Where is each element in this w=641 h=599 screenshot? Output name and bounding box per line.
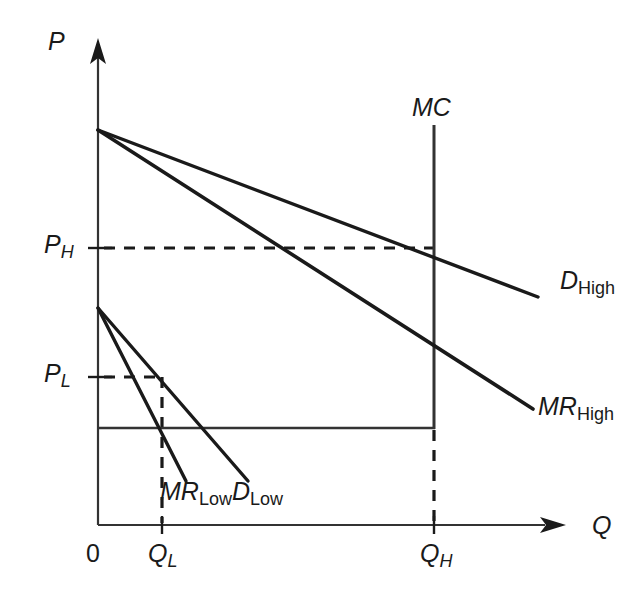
curve-label-demand-low-base: D: [232, 477, 250, 505]
curve-label-mc: MC: [412, 95, 451, 120]
tick-label-q-low-base: Q: [148, 539, 167, 567]
curve-label-marginal-revenue-high-base: MR: [538, 392, 577, 420]
price-discrimination-figure: P Q 0 PH PL QL QH MC DHigh MRHigh DLow M…: [0, 0, 641, 599]
diagram-canvas: [0, 0, 641, 599]
curve-label-demand-low-sub: Low: [250, 489, 283, 509]
x-axis-label: Q: [592, 513, 611, 538]
tick-label-p-high-sub: H: [61, 242, 74, 262]
tick-label-q-high: QH: [420, 541, 452, 566]
curve-label-demand-high-base: D: [560, 266, 578, 294]
curve-label-marginal-revenue-high-sub: High: [577, 404, 614, 424]
curve-label-marginal-revenue-high: MRHigh: [538, 394, 614, 419]
tick-label-p-high-base: P: [44, 230, 61, 258]
curve-label-demand-high: DHigh: [560, 268, 615, 293]
curve-label-marginal-revenue-low-sub: Low: [199, 489, 232, 509]
tick-label-q-high-sub: H: [439, 551, 452, 571]
curve-label-demand-high-sub: High: [578, 278, 615, 298]
origin-label: 0: [86, 541, 100, 566]
tick-label-p-low-sub: L: [61, 371, 71, 391]
tick-label-p-low: PL: [44, 361, 71, 386]
tick-label-q-low: QL: [148, 541, 177, 566]
curve-label-marginal-revenue-low: MRLow: [160, 479, 232, 504]
tick-label-p-high: PH: [44, 232, 74, 257]
tick-label-q-low-sub: L: [167, 551, 177, 571]
tick-label-q-high-base: Q: [420, 539, 439, 567]
y-axis-label: P: [48, 29, 65, 54]
curve-label-demand-low: DLow: [232, 479, 283, 504]
curve-label-mc-base: MC: [412, 93, 451, 121]
tick-label-p-low-base: P: [44, 359, 61, 387]
curve-label-marginal-revenue-low-base: MR: [160, 477, 199, 505]
